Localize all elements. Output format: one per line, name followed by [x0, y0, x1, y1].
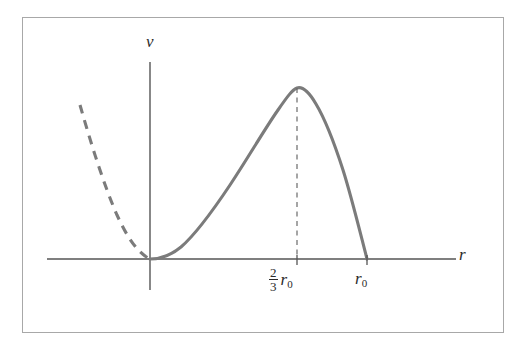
- tick-variable-letter-alt: r: [355, 269, 362, 288]
- curve-solid-branch: [150, 88, 367, 259]
- x-axis-label: r: [459, 246, 466, 263]
- tick-variable-subscript: 0: [287, 278, 293, 290]
- x-tick-label-r0: r0: [355, 270, 367, 287]
- y-axis-label: v: [146, 33, 154, 50]
- fraction-denominator: 3: [269, 279, 278, 293]
- tick-variable-r0: r0: [281, 271, 293, 288]
- x-tick-label-two-thirds-r0: 2 3 r0: [269, 266, 293, 294]
- tick-variable-subscript-alt: 0: [362, 277, 368, 289]
- fraction-numerator: 2: [269, 266, 278, 279]
- tick-variable-r0-alt: r0: [355, 270, 367, 287]
- curve-dashed-branch: [80, 105, 150, 259]
- figure-root: v r 2 3 r0 r0: [0, 0, 519, 357]
- plot-canvas: [0, 0, 519, 357]
- fraction-two-thirds: 2 3: [269, 266, 278, 294]
